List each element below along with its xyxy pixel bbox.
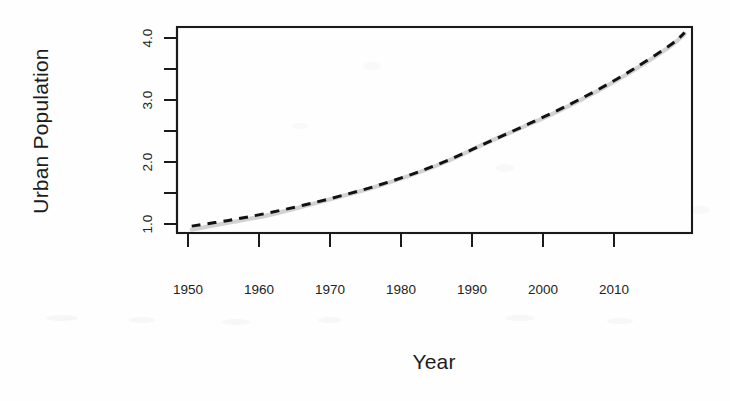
x-tick-label-2000: 2000	[528, 282, 558, 297]
chart-figure: Urban Population Year 1.0 2.0 3.0 4.0	[0, 0, 730, 401]
figure-background	[0, 0, 730, 401]
x-tick-label-1980: 1980	[386, 282, 416, 297]
x-tick-label-2010: 2010	[599, 282, 629, 297]
x-tick-label-1960: 1960	[244, 282, 274, 297]
y-tick-label-3: 3.0	[140, 91, 155, 110]
x-tick-label-1950: 1950	[173, 282, 203, 297]
y-tick-label-1: 1.0	[140, 215, 155, 234]
urban-population-line-chart: Urban Population Year 1.0 2.0 3.0 4.0	[0, 0, 730, 401]
y-axis-title: Urban Population	[29, 48, 52, 213]
x-tick-label-1990: 1990	[457, 282, 487, 297]
y-tick-label-2: 2.0	[140, 153, 155, 172]
x-tick-label-1970: 1970	[315, 282, 345, 297]
x-axis-title: Year	[412, 350, 455, 373]
y-tick-label-4: 4.0	[140, 29, 155, 48]
